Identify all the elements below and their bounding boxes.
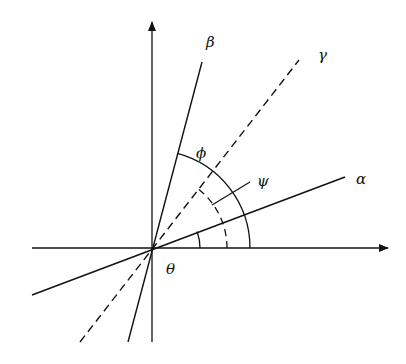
coordinate-axes (32, 22, 388, 342)
angle-lines (32, 60, 345, 342)
label-phi: ϕ (196, 144, 206, 162)
line-beta (128, 62, 202, 342)
leader-psi (212, 182, 250, 205)
label-psi: ψ (257, 172, 269, 190)
label-beta: β (205, 33, 215, 51)
angle-arcs (177, 153, 250, 248)
labels: βγαθψϕ (166, 33, 366, 278)
line-gamma (80, 60, 299, 342)
angle-diagram: βγαθψϕ (0, 0, 406, 364)
arc-theta (197, 231, 200, 248)
arc-phi (177, 153, 250, 248)
line-alpha (32, 177, 345, 295)
label-theta: θ (166, 260, 175, 278)
label-alpha: α (356, 170, 366, 188)
label-gamma: γ (318, 46, 327, 64)
arc-psi (198, 189, 227, 248)
